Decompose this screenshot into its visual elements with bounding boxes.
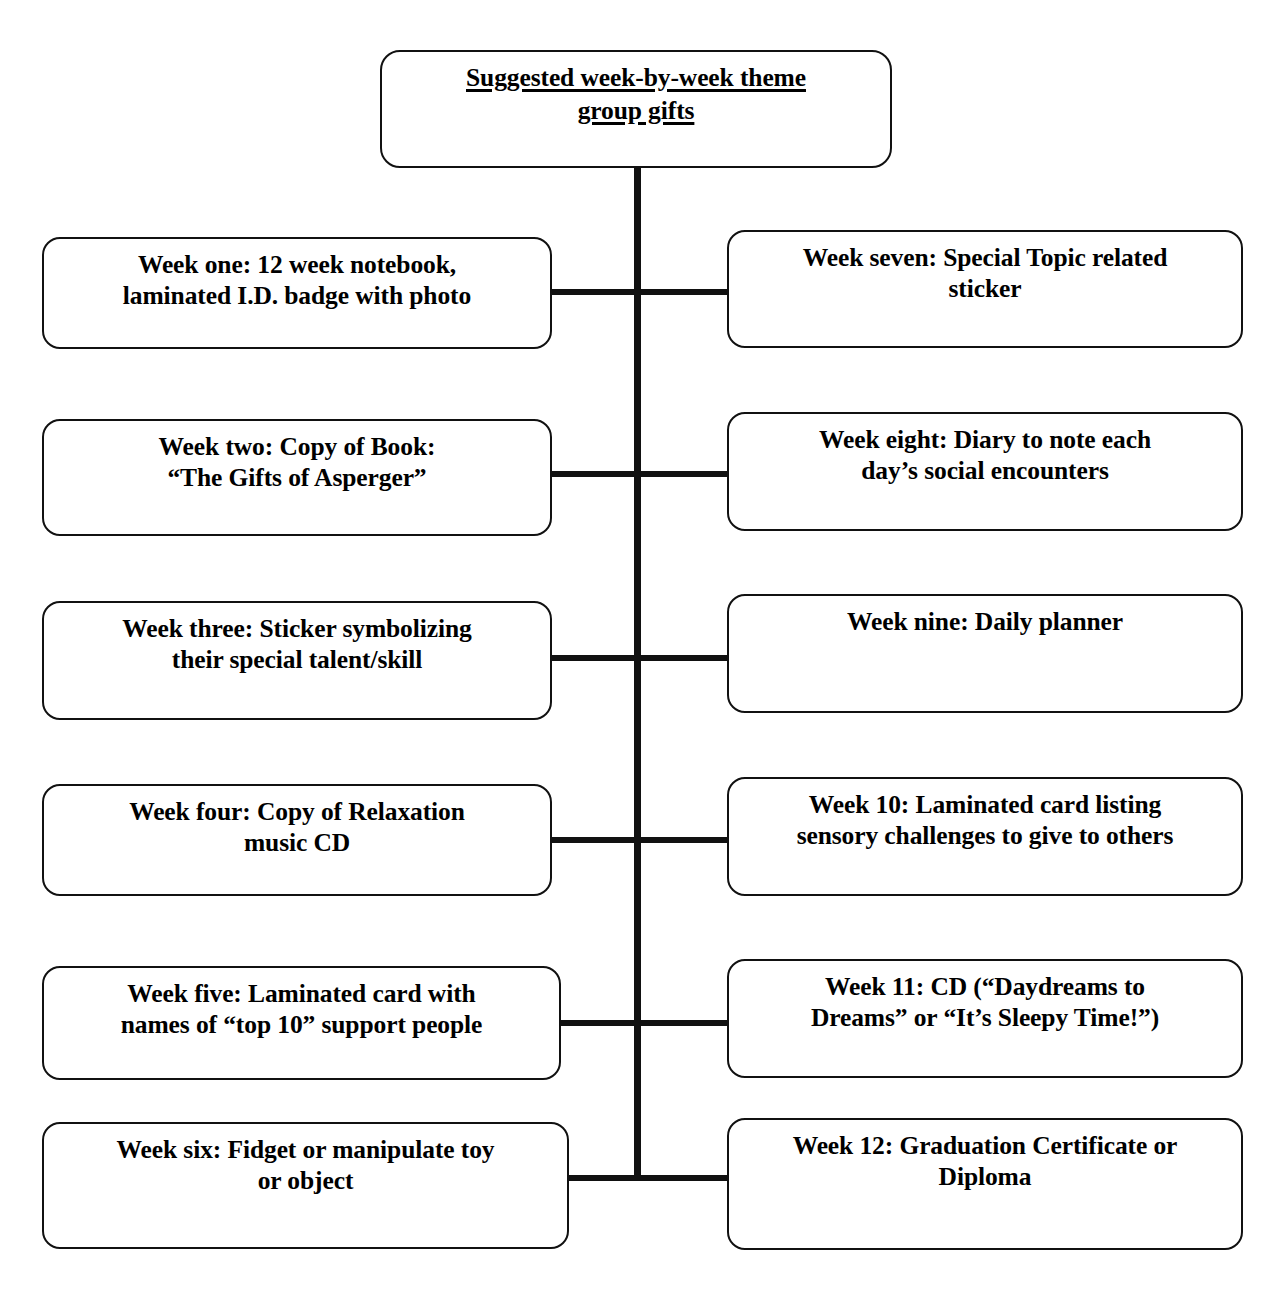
node-week-five-label: Week five: Laminated card with names of … xyxy=(58,978,545,1040)
node-week-six-label: Week six: Fidget or manipulate toy or ob… xyxy=(58,1134,553,1196)
node-week-eight[interactable]: Week eight: Diary to note each day’s soc… xyxy=(727,412,1243,531)
node-week-four-label: Week four: Copy of Relaxation music CD xyxy=(58,796,536,858)
node-title-label: Suggested week-by-week theme group gifts xyxy=(396,61,876,127)
branch-line-row-1 xyxy=(549,289,729,295)
node-week-twelve-label: Week 12: Graduation Certificate or Diplo… xyxy=(743,1130,1227,1192)
node-week-two[interactable]: Week two: Copy of Book: “The Gifts of As… xyxy=(42,419,552,536)
branch-line-row-4 xyxy=(549,837,729,843)
node-week-seven-label: Week seven: Special Topic related sticke… xyxy=(743,242,1227,304)
node-week-eleven[interactable]: Week 11: CD (“Daydreams to Dreams” or “I… xyxy=(727,959,1243,1078)
spine-vertical-line xyxy=(634,168,641,1181)
node-week-nine-label: Week nine: Daily planner xyxy=(743,606,1227,637)
branch-line-row-3 xyxy=(549,655,729,661)
node-week-seven[interactable]: Week seven: Special Topic related sticke… xyxy=(727,230,1243,348)
node-week-twelve[interactable]: Week 12: Graduation Certificate or Diplo… xyxy=(727,1118,1243,1250)
node-week-five[interactable]: Week five: Laminated card with names of … xyxy=(42,966,561,1080)
node-week-four[interactable]: Week four: Copy of Relaxation music CD xyxy=(42,784,552,896)
node-week-eleven-label: Week 11: CD (“Daydreams to Dreams” or “I… xyxy=(743,971,1227,1033)
node-week-three-label: Week three: Sticker symbolizing their sp… xyxy=(58,613,536,675)
branch-line-row-5 xyxy=(549,1020,729,1026)
node-title[interactable]: Suggested week-by-week theme group gifts xyxy=(380,50,892,168)
branch-line-row-2 xyxy=(549,471,729,477)
node-week-one-label: Week one: 12 week notebook, laminated I.… xyxy=(58,249,536,311)
node-week-nine[interactable]: Week nine: Daily planner xyxy=(727,594,1243,713)
node-week-one[interactable]: Week one: 12 week notebook, laminated I.… xyxy=(42,237,552,349)
diagram-canvas: Suggested week-by-week theme group gifts… xyxy=(0,0,1285,1307)
node-week-two-label: Week two: Copy of Book: “The Gifts of As… xyxy=(58,431,536,493)
node-week-ten[interactable]: Week 10: Laminated card listing sensory … xyxy=(727,777,1243,896)
branch-line-row-6 xyxy=(565,1175,729,1181)
node-week-six[interactable]: Week six: Fidget or manipulate toy or ob… xyxy=(42,1122,569,1249)
node-week-three[interactable]: Week three: Sticker symbolizing their sp… xyxy=(42,601,552,720)
node-week-eight-label: Week eight: Diary to note each day’s soc… xyxy=(743,424,1227,486)
node-week-ten-label: Week 10: Laminated card listing sensory … xyxy=(743,789,1227,851)
